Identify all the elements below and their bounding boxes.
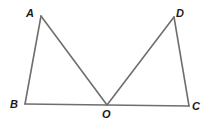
segment-bc (25, 104, 189, 106)
diagram-svg: A D B O C (0, 0, 214, 122)
label-d: D (176, 7, 184, 19)
segment-do (107, 17, 174, 105)
label-b: B (10, 98, 18, 110)
segment-ab (25, 16, 41, 104)
segment-ao (41, 16, 107, 105)
label-a: A (25, 7, 34, 19)
segment-dc (174, 17, 189, 106)
segments (25, 16, 189, 106)
label-c: C (192, 100, 201, 112)
label-o: O (102, 108, 111, 120)
geometry-diagram: A D B O C (0, 0, 214, 122)
